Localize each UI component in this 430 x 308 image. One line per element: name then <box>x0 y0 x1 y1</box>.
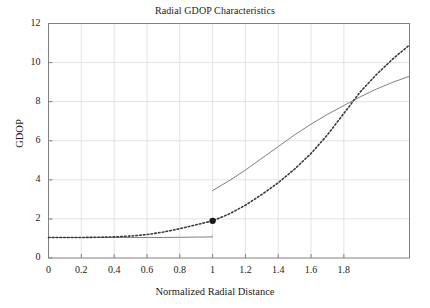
x-axis-title: Normalized Radial Distance <box>0 286 430 297</box>
y-tick-label: 4 <box>19 173 41 184</box>
data-markers-group <box>209 218 215 224</box>
gridlines-group <box>49 24 410 259</box>
x-tick-label: 1 <box>198 264 228 275</box>
marker-transition-point <box>209 218 215 224</box>
y-tick-label: 12 <box>19 17 41 28</box>
y-axis-title: GDOP <box>14 104 25 164</box>
chart-figure: Radial GDOP Characteristics 024681012 00… <box>0 0 430 308</box>
x-tick-label: 0.8 <box>165 264 195 275</box>
x-tick-label: 1.6 <box>296 264 326 275</box>
y-tick-label: 10 <box>19 56 41 67</box>
plot-canvas <box>0 0 430 308</box>
y-tick-label: 0 <box>19 251 41 262</box>
x-tick-label: 0 <box>34 264 64 275</box>
y-tick-label: 2 <box>19 212 41 223</box>
series-line-dotted-curve <box>49 45 410 237</box>
x-tick-label: 0.6 <box>132 264 162 275</box>
x-tick-label: 1.2 <box>230 264 260 275</box>
x-tick-label: 1.8 <box>329 264 359 275</box>
x-tick-label: 1.4 <box>263 264 293 275</box>
x-tick-label: 0.2 <box>66 264 96 275</box>
data-series-group <box>49 45 410 237</box>
x-tick-label: 0.4 <box>99 264 129 275</box>
